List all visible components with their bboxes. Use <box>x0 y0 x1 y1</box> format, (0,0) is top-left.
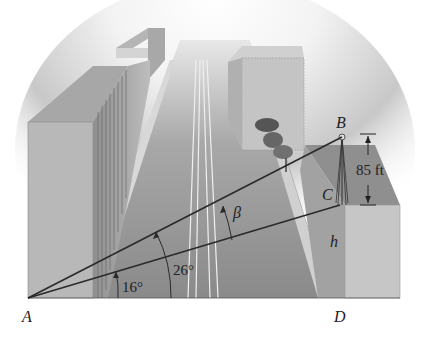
trigonometry-figure: A B C D 85 ft h 16° 26° β <box>0 0 426 337</box>
label-beta: β <box>232 204 241 222</box>
label-angle-16: 16° <box>122 279 143 295</box>
label-B: B <box>336 114 346 131</box>
label-85ft: 85 ft <box>356 162 385 178</box>
label-A: A <box>21 308 32 325</box>
label-D: D <box>333 308 346 325</box>
label-angle-26: 26° <box>173 262 194 278</box>
label-C: C <box>322 186 333 203</box>
label-h: h <box>330 233 338 250</box>
